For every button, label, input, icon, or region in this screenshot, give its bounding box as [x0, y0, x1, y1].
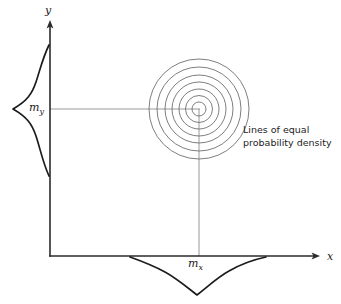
- x-axis-label: x: [327, 250, 334, 263]
- guide-lines-group: [50, 109, 200, 256]
- contour-annotation: Lines of equal probability density: [243, 124, 332, 149]
- mean-x-label: mx: [188, 257, 203, 272]
- mean-y-label: my: [29, 101, 44, 116]
- mean-x-symbol: m: [188, 257, 198, 270]
- figure-canvas: y x my mx Lines of equal probability den…: [0, 0, 341, 304]
- contour-annotation-line-2: probability density: [243, 137, 332, 150]
- mean-x-subscript: x: [198, 263, 203, 272]
- contour-annotation-line-1: Lines of equal: [243, 124, 332, 137]
- mean-y-subscript: y: [38, 107, 44, 116]
- mean-y-symbol: m: [29, 101, 39, 114]
- y-axis-label: y: [44, 4, 52, 17]
- bivariate-gaussian-contour-plot: y x my mx: [0, 0, 341, 304]
